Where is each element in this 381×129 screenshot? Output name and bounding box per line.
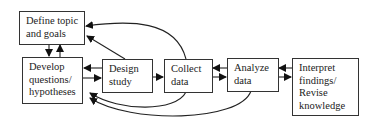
node-analyze-data: Analyze data	[227, 58, 279, 92]
node-collect-data: Collect data	[164, 59, 213, 93]
node-develop-questions: Develop questions/ hypotheses	[22, 57, 83, 104]
arrow-design-to-define	[87, 36, 125, 59]
node-define-topic: Define topic and goals	[19, 11, 85, 45]
node-design-study: Design study	[102, 59, 153, 93]
arrow-collect-to-define	[86, 23, 186, 59]
node-interpret-findings: Interpret findings/ Revise knowledge	[292, 58, 359, 116]
